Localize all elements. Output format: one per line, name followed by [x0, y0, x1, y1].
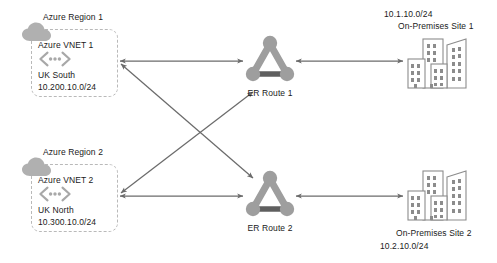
site-1-name: On-Premises Site 1 [398, 21, 474, 31]
site-2-cidr: 10.2.10.0/24 [380, 241, 428, 251]
connection-vnet2-er1 [121, 92, 253, 193]
expressroute-icon [243, 33, 297, 89]
network-diagram: Azure Region 1 Azure VNET 1 UK South 10.… [0, 0, 497, 263]
er-route-2-label: ER Route 2 [240, 223, 300, 233]
vnet-icon [38, 51, 72, 71]
er-route-1-label: ER Route 1 [240, 88, 300, 98]
buildings-icon [406, 36, 470, 95]
region-2-cidr: 10.300.10.0/24 [38, 217, 96, 227]
region-2-location: UK North [38, 205, 74, 215]
site-2-name: On-Premises Site 2 [396, 228, 472, 238]
buildings-icon [406, 168, 470, 227]
region-2-vnet-name: Azure VNET 2 [38, 175, 93, 185]
region-1-vnet-name: Azure VNET 1 [38, 40, 93, 50]
site-1-cidr: 10.1.10.0/24 [384, 9, 432, 19]
region-1-location: UK South [38, 70, 75, 80]
connection-vnet1-er2 [121, 64, 253, 178]
region-1-cidr: 10.200.10.0/24 [38, 82, 96, 92]
vnet-icon [38, 186, 72, 206]
expressroute-icon [243, 168, 297, 224]
